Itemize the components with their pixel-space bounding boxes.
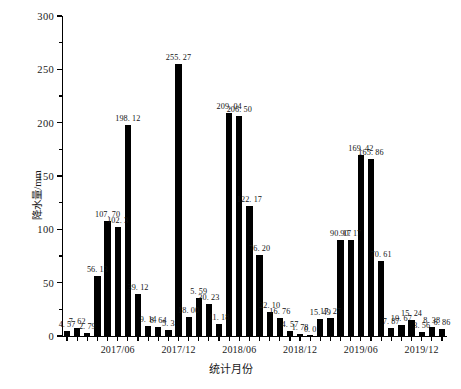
y-minor-tick-75 bbox=[59, 255, 63, 256]
x-tick-2019/06 bbox=[360, 336, 361, 341]
value-label-2018/10: 16. 76 bbox=[269, 307, 290, 316]
bar-2018/02 bbox=[196, 298, 202, 336]
x-tick-2018/08 bbox=[259, 336, 260, 341]
x-tick-label-2017/06: 2017/06 bbox=[101, 344, 135, 355]
y-minor-tick-175 bbox=[59, 149, 63, 150]
y-tick-150 bbox=[57, 175, 62, 176]
bar-2020/02 bbox=[439, 329, 445, 336]
bar-2019/05 bbox=[348, 240, 354, 336]
x-tick-2019/03 bbox=[330, 336, 331, 341]
value-label-2019/01: 0. 0 bbox=[304, 325, 317, 334]
x-tick-2018/01 bbox=[188, 336, 189, 341]
x-tick-label-2018/12: 2018/12 bbox=[283, 344, 317, 355]
x-tick-2017/07 bbox=[127, 336, 128, 341]
y-tick-50 bbox=[57, 282, 62, 283]
x-tick-2018/10 bbox=[279, 336, 280, 341]
x-tick-2020/02 bbox=[441, 336, 442, 341]
x-tick-2017/02 bbox=[77, 336, 78, 341]
value-label-2018/08: 76. 20 bbox=[249, 244, 270, 253]
bar-2017/12 bbox=[175, 64, 181, 336]
value-label-2018/01: 18. 00 bbox=[178, 306, 199, 315]
x-tick-label-2019/06: 2019/06 bbox=[344, 344, 378, 355]
x-tick-2019/05 bbox=[350, 336, 351, 341]
y-minor-tick-275 bbox=[59, 42, 63, 43]
x-tick-2019/08 bbox=[381, 336, 382, 341]
x-tick-2020/01 bbox=[431, 336, 432, 341]
y-tick-label-200: 200 bbox=[37, 117, 54, 128]
x-tick-2017/10 bbox=[158, 336, 159, 341]
x-tick-2019/11 bbox=[411, 336, 412, 341]
value-label-2018/06: 206. 50 bbox=[227, 105, 252, 114]
value-label-2019/03: 17. 27 bbox=[320, 307, 341, 316]
x-axis-title: 统计月份 bbox=[0, 360, 461, 376]
y-tick-label-0: 0 bbox=[48, 331, 54, 342]
y-minor-tick-25 bbox=[59, 309, 63, 310]
bar-2017/11 bbox=[165, 330, 171, 336]
x-tick-2019/12 bbox=[421, 336, 422, 341]
y-tick-250 bbox=[57, 69, 62, 70]
value-label-2020/02: 6. 86 bbox=[433, 318, 450, 327]
x-tick-2018/03 bbox=[208, 336, 209, 341]
x-tick-2018/09 bbox=[269, 336, 270, 341]
x-tick-2019/02 bbox=[320, 336, 321, 341]
x-tick-2018/04 bbox=[218, 336, 219, 341]
x-tick-2017/12 bbox=[178, 336, 179, 341]
bar-2017/07 bbox=[125, 125, 131, 336]
bar-2018/04 bbox=[216, 324, 222, 336]
x-tick-2018/11 bbox=[289, 336, 290, 341]
y-tick-label-300: 300 bbox=[37, 11, 54, 22]
x-axis-line bbox=[62, 336, 447, 337]
y-tick-300 bbox=[57, 15, 62, 16]
value-label-2017/03: 2. 79 bbox=[79, 322, 96, 331]
bar-2019/04 bbox=[337, 240, 343, 336]
x-tick-2017/03 bbox=[87, 336, 88, 341]
bar-2018/07 bbox=[246, 206, 252, 336]
value-label-2017/11: 5. 3 bbox=[162, 319, 175, 328]
x-tick-label-2018/06: 2018/06 bbox=[222, 344, 256, 355]
y-tick-100 bbox=[57, 229, 62, 230]
bar-2019/09 bbox=[388, 328, 394, 336]
x-tick-2017/05 bbox=[107, 336, 108, 341]
x-tick-2017/11 bbox=[168, 336, 169, 341]
x-tick-2019/04 bbox=[340, 336, 341, 341]
value-label-2017/06: 102. 3 bbox=[107, 216, 128, 225]
bar-2018/05 bbox=[226, 113, 232, 336]
value-label-2017/08: 39. 12 bbox=[127, 283, 148, 292]
x-tick-2017/01 bbox=[66, 336, 67, 341]
y-tick-label-250: 250 bbox=[37, 64, 54, 75]
bar-2019/06 bbox=[358, 155, 364, 336]
y-minor-tick-125 bbox=[59, 202, 63, 203]
y-tick-200 bbox=[57, 122, 62, 123]
y-tick-0 bbox=[57, 335, 62, 336]
value-label-2018/07: 122. 17 bbox=[237, 195, 262, 204]
bar-2019/10 bbox=[398, 325, 404, 336]
x-tick-2019/09 bbox=[391, 336, 392, 341]
x-tick-2017/09 bbox=[148, 336, 149, 341]
x-tick-2019/10 bbox=[401, 336, 402, 341]
value-label-2017/07: 198. 12 bbox=[115, 114, 140, 123]
bar-2019/01 bbox=[307, 335, 313, 336]
value-label-2019/08: 70. 61 bbox=[371, 250, 392, 259]
y-tick-label-100: 100 bbox=[37, 224, 54, 235]
x-tick-2018/02 bbox=[198, 336, 199, 341]
bar-2018/06 bbox=[236, 116, 242, 336]
x-tick-2018/05 bbox=[229, 336, 230, 341]
bar-2019/07 bbox=[368, 159, 374, 336]
bar-2019/03 bbox=[327, 318, 333, 336]
y-minor-tick-225 bbox=[59, 95, 63, 96]
bar-2017/06 bbox=[115, 227, 121, 336]
x-tick-2019/07 bbox=[370, 336, 371, 341]
bar-2017/09 bbox=[145, 326, 151, 336]
bar-2017/03 bbox=[84, 333, 90, 336]
x-tick-label-2019/12: 2019/12 bbox=[405, 344, 439, 355]
x-tick-2019/01 bbox=[310, 336, 311, 341]
x-tick-2017/08 bbox=[137, 336, 138, 341]
precipitation-bar-chart: 降水量/mm 050100150200250300 2017/062017/12… bbox=[0, 0, 461, 389]
y-tick-label-150: 150 bbox=[37, 171, 54, 182]
bar-2018/12 bbox=[297, 334, 303, 336]
bar-2019/12 bbox=[419, 332, 425, 336]
bar-2018/08 bbox=[256, 255, 262, 336]
plot-area: 050100150200250300 2017/062017/122018/06… bbox=[62, 16, 447, 336]
x-tick-2018/06 bbox=[239, 336, 240, 341]
x-tick-2017/06 bbox=[117, 336, 118, 341]
